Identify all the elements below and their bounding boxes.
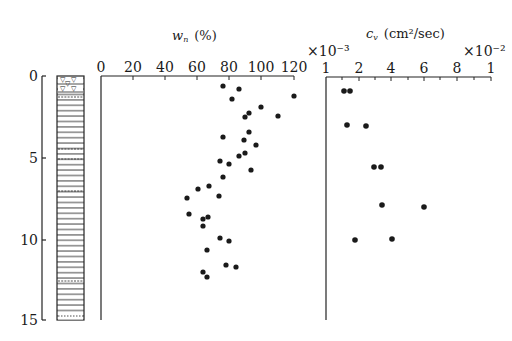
data-point [233,264,238,269]
data-point [204,247,209,252]
data-point [421,204,427,210]
cv-tick: 2 [355,60,364,76]
data-point [205,214,210,219]
data-point [341,88,347,94]
data-point [223,262,228,267]
data-point [206,183,211,188]
cv-tick: 1 [322,60,331,76]
data-point [217,235,222,240]
wn-tick: 60 [188,59,206,75]
depth-tick-15: 15 [20,312,38,328]
data-point [246,110,251,115]
wn-tick: 0 [97,59,106,75]
cv-multiplier-right: ×10⁻² [463,43,506,59]
depth-tick-0: 0 [29,68,38,84]
data-point [347,88,353,94]
data-point [275,113,280,118]
data-point [258,104,263,109]
soil-column: ▽▽ ▽ ▽▽ [57,76,84,320]
cv-tick: 6 [420,60,429,76]
svg-text:▽: ▽ [71,76,77,84]
wn-panel: wn(%) 0 20 40 60 80 100 120 [97,28,308,320]
cv-axis-title: cv(cm²/sec) [366,26,445,42]
cv-tick: 4 [387,60,396,76]
data-point [220,83,225,88]
wn-tick: 20 [124,59,142,75]
data-point [236,153,241,158]
wn-tick: 120 [281,59,308,75]
data-point [217,158,222,163]
data-point [226,161,231,166]
data-point [241,137,246,142]
soil-profile-figure: 0 5 10 15 ▽▽ ▽ ▽▽ wn(%) [0,0,512,341]
data-point [291,93,296,98]
depth-tick-5: 5 [29,150,38,166]
wn-data-points [184,83,296,279]
data-point [389,236,395,242]
depth-axis: 0 5 10 15 [20,68,46,328]
depth-tick-10: 10 [20,232,38,248]
data-point [184,195,189,200]
cv-data-points [341,88,427,243]
data-point [352,237,358,243]
cv-tick: 8 [453,60,462,76]
data-point [216,193,221,198]
data-point [220,174,225,179]
data-point [200,216,205,221]
data-point [236,86,241,91]
data-point [253,142,258,147]
data-point [229,96,234,101]
data-point [242,150,247,155]
data-point [220,134,225,139]
data-point [226,238,231,243]
cv-panel: cv(cm²/sec) ×10⁻³ ×10⁻² 1 2 4 6 8 1 [307,26,506,320]
cv-tick: 1 [487,60,496,76]
data-point [379,202,385,208]
data-point [200,223,205,228]
data-point [371,164,377,170]
data-point [246,129,251,134]
wn-tick: 40 [156,59,174,75]
data-point [363,123,369,129]
wn-tick: 100 [248,59,275,75]
data-point [378,164,384,170]
data-point [344,122,350,128]
data-point [204,274,209,279]
cv-multiplier-left: ×10⁻³ [307,43,350,59]
data-point [242,114,247,119]
wn-axis-title: wn(%) [172,28,217,44]
data-point [186,211,191,216]
data-point [195,186,200,191]
wn-tick: 80 [220,59,238,75]
data-point [200,269,205,274]
data-point [248,167,253,172]
